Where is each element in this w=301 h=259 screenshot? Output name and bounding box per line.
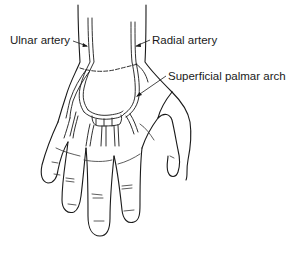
superficial-palmar-arch — [64, 64, 138, 146]
hand-artery-diagram: Ulnar artery Radial artery Superficial p… — [0, 0, 301, 259]
forearm-outline — [58, 5, 172, 122]
radial-artery — [124, 22, 148, 117]
superficial-palmar-arch-label: Superficial palmar arch — [168, 71, 286, 83]
ulnar-artery-label: Ulnar artery — [10, 35, 70, 47]
radial-artery-label: Radial artery — [152, 35, 217, 47]
